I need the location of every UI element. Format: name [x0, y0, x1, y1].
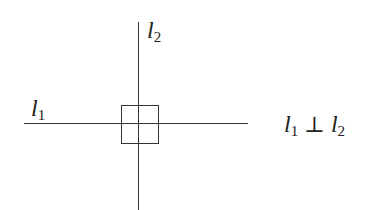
- label-l1: l1: [31, 95, 45, 123]
- perpendicular-lines-diagram: l1 l2 l1⊥l2: [0, 0, 370, 210]
- label-l2: l2: [147, 17, 161, 45]
- right-angle-marker: [122, 106, 159, 144]
- relation-statement: l1⊥l2: [284, 111, 345, 139]
